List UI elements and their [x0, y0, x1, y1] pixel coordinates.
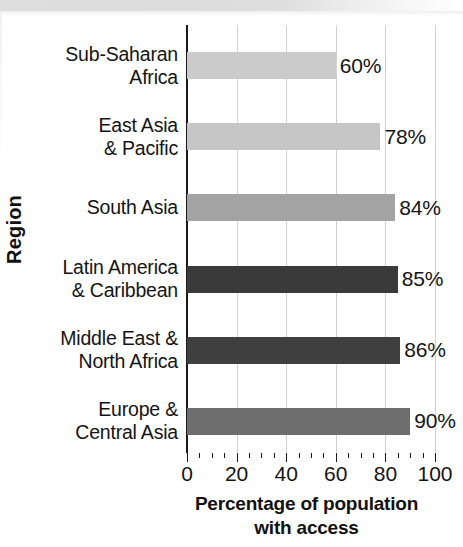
bar-row: 60% — [187, 52, 435, 79]
bar — [187, 52, 336, 79]
gridline-20 — [237, 25, 238, 452]
bar — [187, 408, 410, 435]
minor-tick-5 — [199, 453, 200, 458]
x-tick-label-60: 60 — [324, 462, 347, 486]
minor-tick-70 — [361, 453, 362, 458]
x-tick-label-40: 40 — [275, 462, 298, 486]
x-tick-label-100: 100 — [417, 462, 452, 486]
category-label-line: North Africa — [12, 350, 178, 373]
bar-value-label: 85% — [402, 267, 443, 291]
bar-value-label: 90% — [414, 409, 455, 433]
bar — [187, 123, 380, 150]
major-tick-40 — [286, 453, 287, 462]
minor-tick-85 — [398, 453, 399, 458]
minor-tick-75 — [373, 453, 374, 458]
minor-tick-30 — [261, 453, 262, 458]
major-tick-100 — [435, 453, 436, 462]
minor-tick-35 — [274, 453, 275, 458]
category-label: Europe &Central Asia — [12, 398, 178, 444]
bar-row: 90% — [187, 408, 435, 435]
gridline-60 — [336, 25, 337, 452]
major-tick-20 — [237, 453, 238, 462]
scan-artifact-left-edge — [0, 14, 2, 547]
bar — [187, 266, 398, 293]
category-label-line: South Asia — [12, 196, 178, 219]
category-label: South Asia — [12, 196, 178, 219]
x-axis-ticks — [187, 453, 435, 462]
category-label-line: East Asia — [12, 114, 178, 137]
bar-row: 86% — [187, 337, 435, 364]
category-label-line: Europe & — [12, 398, 178, 421]
bar-value-label: 84% — [399, 196, 440, 220]
gridline-40 — [286, 25, 287, 452]
category-label-line: Middle East & — [12, 327, 178, 350]
minor-tick-55 — [323, 453, 324, 458]
category-label-line: & Caribbean — [12, 279, 178, 302]
plot-area: 60%78%84%85%86%90% — [187, 25, 435, 452]
category-label-line: & Pacific — [12, 137, 178, 160]
major-tick-80 — [385, 453, 386, 462]
minor-tick-15 — [224, 453, 225, 458]
category-label-line: Africa — [12, 66, 178, 89]
x-axis-title: Percentage of population with access — [150, 492, 463, 540]
minor-tick-10 — [212, 453, 213, 458]
x-axis-title-line-2: with access — [150, 516, 463, 540]
category-label: Sub-SaharanAfrica — [12, 43, 178, 89]
minor-tick-95 — [423, 453, 424, 458]
bar-value-label: 60% — [340, 54, 381, 78]
category-label-line: Central Asia — [12, 421, 178, 444]
bar-value-label: 86% — [404, 338, 445, 362]
scan-artifact-band-soft — [0, 11, 463, 16]
category-label-line: Latin America — [12, 256, 178, 279]
gridline-80 — [385, 25, 386, 452]
bar — [187, 194, 395, 221]
minor-tick-25 — [249, 453, 250, 458]
x-tick-label-20: 20 — [225, 462, 248, 486]
bar-row: 85% — [187, 266, 435, 293]
bar-value-label: 78% — [384, 125, 425, 149]
x-tick-label-80: 80 — [374, 462, 397, 486]
x-tick-label-0: 0 — [181, 462, 193, 486]
minor-tick-65 — [348, 453, 349, 458]
major-tick-0 — [187, 453, 188, 462]
category-label: Latin America& Caribbean — [12, 256, 178, 302]
x-axis-tick-labels: 020406080100 — [187, 462, 435, 488]
bar — [187, 337, 400, 364]
bar-row: 84% — [187, 194, 435, 221]
minor-tick-90 — [410, 453, 411, 458]
category-label-line: Sub-Saharan — [12, 43, 178, 66]
category-label: East Asia& Pacific — [12, 114, 178, 160]
bar-chart-figure: Region 60%78%84%85%86%90% Sub-SaharanAfr… — [0, 0, 463, 547]
category-label: Middle East &North Africa — [12, 327, 178, 373]
gridline-100 — [435, 25, 436, 452]
bar-row: 78% — [187, 123, 435, 150]
minor-tick-45 — [299, 453, 300, 458]
major-tick-60 — [336, 453, 337, 462]
minor-tick-50 — [311, 453, 312, 458]
scan-artifact-band — [0, 0, 463, 11]
x-axis-title-line-1: Percentage of population — [150, 492, 463, 516]
